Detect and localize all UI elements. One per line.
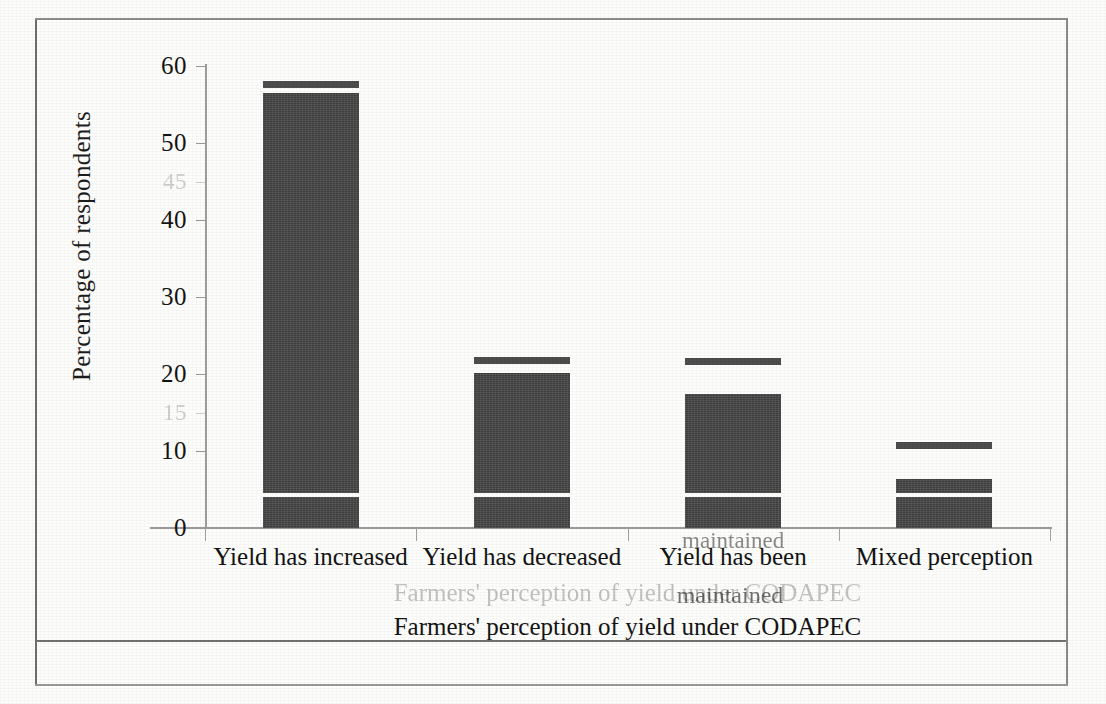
x-tick-mark (205, 528, 206, 541)
y-tick-label: 40 (117, 207, 187, 232)
bar-segment-base (896, 497, 992, 528)
bar-segment-body (896, 479, 992, 492)
y-tick-mark (196, 182, 206, 183)
y-tick-label: 15 (117, 400, 187, 425)
y-tick-mark (196, 220, 206, 221)
y-tick-label: 60 (117, 53, 187, 78)
page-rule-line (36, 640, 1067, 648)
y-tick-label: 10 (117, 438, 187, 463)
x-category-label: Mixed perception (794, 542, 1094, 572)
y-axis-title: Percentage of respondents (68, 36, 96, 456)
y-tick-mark (196, 374, 206, 375)
bar-segment-cap (896, 442, 992, 450)
bar-chart: 60504540302015100 Percentage of responde… (0, 0, 1106, 704)
page-border-right (1066, 18, 1068, 686)
y-tick-label: 45 (117, 169, 187, 194)
y-tick-mark (196, 413, 206, 414)
y-tick-mark (196, 66, 206, 67)
bar-yield-has-decreased[interactable] (474, 0, 570, 528)
y-axis-line (205, 64, 207, 528)
bar-segment-cap (474, 357, 570, 364)
bar-segment-base (685, 497, 781, 528)
y-tick-label: 30 (117, 284, 187, 309)
bar-segment-body (263, 93, 359, 493)
y-tick-label: 0 (117, 515, 187, 540)
x-tick-mark (416, 528, 417, 541)
bar-yield-has-increased[interactable] (263, 0, 359, 528)
x-axis-title: Farmers' perception of yield under CODAP… (205, 612, 1050, 642)
bar-mixed-perception[interactable] (896, 0, 992, 528)
bar-segment-cap (685, 358, 781, 365)
x-tick-mark (1050, 528, 1051, 541)
y-tick-mark (196, 451, 206, 452)
bar-segment-base (263, 497, 359, 528)
ghost-fragment-maintained: maintained (600, 582, 860, 609)
scanned-page: 60504540302015100 Percentage of responde… (0, 0, 1106, 704)
page-border-left (35, 18, 37, 686)
bar-segment-cap (263, 81, 359, 87)
y-tick-label: 50 (117, 130, 187, 155)
bar-segment-body (685, 394, 781, 493)
y-tick-mark (196, 297, 206, 298)
bar-yield-has-been-maintained[interactable] (685, 0, 781, 528)
page-border-bottom (35, 684, 1068, 686)
bar-segment-base (474, 497, 570, 528)
bar-segment-body (474, 373, 570, 492)
y-tick-mark (196, 143, 206, 144)
y-tick-label: 20 (117, 361, 187, 386)
page-border-top (35, 18, 1068, 20)
